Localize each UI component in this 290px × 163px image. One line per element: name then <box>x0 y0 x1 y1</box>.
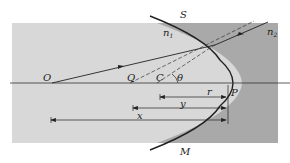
label-C: C <box>156 72 164 83</box>
label-y: y <box>179 98 186 109</box>
label-O: O <box>43 72 51 83</box>
label-x: x <box>137 110 143 121</box>
label-Q: Q <box>127 72 135 83</box>
refraction-diagram: O Q C θ P S M n1 n2 r y x <box>0 0 290 163</box>
label-M: M <box>179 146 191 157</box>
label-S: S <box>180 9 187 20</box>
label-theta: θ <box>177 72 183 83</box>
label-P: P <box>230 87 238 98</box>
